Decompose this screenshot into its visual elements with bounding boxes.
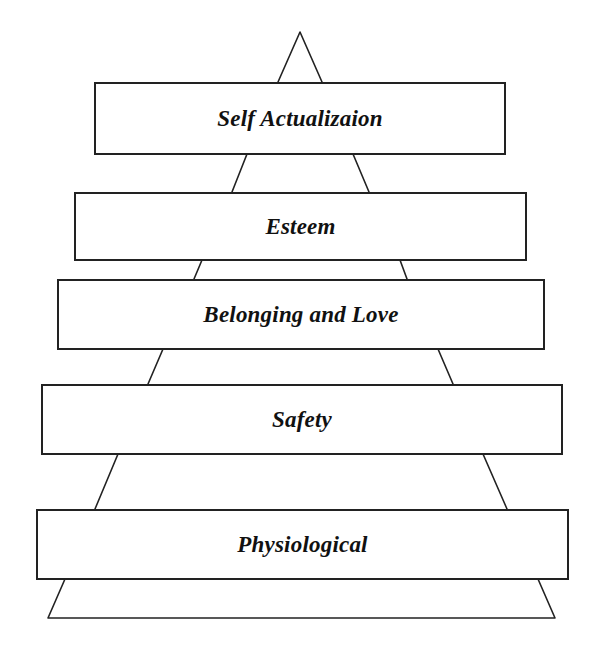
- level-box-belonging-and-love: Belonging and Love: [57, 279, 545, 350]
- pyramid-edge-right: [438, 349, 453, 384]
- level-box-safety: Safety: [41, 384, 563, 455]
- pyramid-edge-right: [400, 260, 407, 279]
- level-box-self-actualization: Self Actualizaion: [94, 82, 506, 155]
- pyramid-edge-left: [232, 154, 247, 192]
- pyramid-apex: [278, 32, 322, 82]
- level-label: Physiological: [237, 532, 367, 558]
- level-label: Esteem: [265, 214, 335, 240]
- pyramid-base: [48, 579, 555, 618]
- level-label: Belonging and Love: [203, 302, 398, 328]
- pyramid-edge-left: [194, 260, 202, 279]
- level-box-physiological: Physiological: [36, 509, 569, 580]
- level-label: Self Actualizaion: [217, 106, 383, 132]
- pyramid-edge-left: [148, 349, 163, 384]
- level-label: Safety: [272, 407, 332, 433]
- level-box-esteem: Esteem: [74, 192, 527, 261]
- pyramid-edge-right: [353, 154, 369, 192]
- pyramid-edge-right: [483, 454, 507, 509]
- pyramid-edge-left: [95, 454, 118, 509]
